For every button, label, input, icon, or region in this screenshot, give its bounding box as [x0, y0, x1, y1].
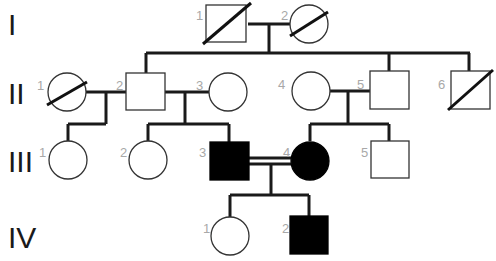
male-symbol	[371, 141, 409, 178]
male-symbol	[126, 73, 165, 110]
individual-number: 4	[278, 77, 285, 92]
individual-II-4: 4	[278, 72, 330, 110]
individual-III-4: 4	[283, 142, 329, 180]
individual-II-6: 6	[438, 70, 493, 110]
individual-number: 1	[203, 221, 210, 236]
female-symbol	[211, 217, 249, 255]
female-symbol	[129, 141, 167, 179]
individual-III-3: 3	[199, 142, 249, 180]
male-symbol	[370, 71, 409, 109]
female-symbol	[49, 141, 87, 179]
individual-III-5: 5	[361, 141, 409, 178]
individual-number: 1	[39, 145, 46, 160]
individual-number: 6	[438, 77, 445, 92]
individual-IV-1: 1	[203, 217, 249, 255]
individual-number: 2	[116, 78, 123, 93]
generation-label-I: I	[8, 8, 16, 41]
relationship-lines	[68, 24, 470, 217]
individual-I-1: 1	[196, 3, 251, 44]
individual-number: 2	[120, 145, 127, 160]
individual-IV-2: 2	[282, 216, 328, 254]
individual-number: 3	[196, 78, 203, 93]
male-symbol-affected	[210, 142, 249, 180]
individual-number: 4	[283, 145, 290, 160]
individual-number: 3	[199, 145, 206, 160]
individual-III-2: 2	[120, 141, 167, 179]
female-symbol	[209, 73, 247, 111]
individual-number: 2	[281, 8, 288, 23]
individual-number: 5	[361, 145, 368, 160]
pedigree-chart: I II III IV	[0, 0, 496, 261]
individual-III-1: 1	[39, 141, 87, 179]
individual-II-1: 1	[37, 73, 87, 111]
individual-number: 2	[282, 221, 289, 236]
generation-label-II: II	[8, 77, 25, 110]
generation-label-IV: IV	[8, 221, 36, 254]
male-symbol-affected	[290, 216, 328, 254]
individual-number: 5	[357, 77, 364, 92]
female-symbol	[292, 72, 330, 110]
individual-number: 1	[196, 8, 203, 23]
generation-label-III: III	[8, 145, 33, 178]
individual-number: 1	[37, 78, 44, 93]
female-symbol-affected	[291, 142, 329, 180]
